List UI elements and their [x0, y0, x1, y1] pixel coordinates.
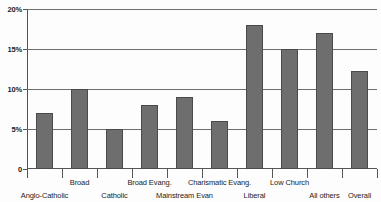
x-axis-tick-mark: [272, 169, 273, 178]
bar[interactable]: [316, 33, 334, 169]
x-axis-tick-mark: [342, 169, 343, 178]
y-axis-tick-label: 0: [18, 165, 22, 174]
bar[interactable]: [176, 97, 194, 169]
bar[interactable]: [141, 105, 159, 169]
y-axis-tick-label: 15%: [8, 45, 22, 54]
x-axis-tick-mark: [97, 169, 98, 178]
x-axis-tick-mark: [167, 169, 168, 178]
bar[interactable]: [281, 49, 299, 169]
gridline: [27, 9, 377, 10]
bar[interactable]: [351, 71, 369, 169]
x-axis-tick-mark: [132, 169, 133, 178]
x-axis-category-label: Anglo-Catholic: [21, 191, 68, 200]
x-axis-tick-mark: [237, 169, 238, 178]
y-axis-tick-label: 20%: [8, 5, 22, 14]
x-axis-category-label: Liberal: [244, 191, 266, 200]
bar[interactable]: [36, 113, 54, 169]
x-axis-category-label: Overall: [348, 191, 371, 200]
y-axis: 20%15%10%5%0: [0, 0, 22, 202]
x-axis-tick-mark: [307, 169, 308, 178]
x-axis-tick-mark: [27, 169, 28, 178]
x-axis-category-label: Mainstream Evan: [156, 191, 213, 200]
x-axis-tick-mark: [62, 169, 63, 178]
x-axis-category-label: Catholic: [101, 191, 127, 200]
bar[interactable]: [106, 129, 124, 169]
x-axis-category-label: Charismatic Evang.: [188, 178, 251, 187]
x-axis-category-label: Broad Evang.: [127, 178, 171, 187]
x-axis-category-label: Broad: [70, 178, 90, 187]
plot-area: [27, 9, 377, 169]
x-axis-category-label: All others: [309, 191, 339, 200]
x-axis: Anglo-CatholicBroadCatholicBroad Evang.M…: [27, 169, 377, 202]
x-axis-tick-mark: [377, 169, 378, 178]
bar[interactable]: [246, 25, 264, 169]
bar[interactable]: [71, 89, 89, 169]
x-axis-category-label: Low Church: [270, 178, 309, 187]
bar[interactable]: [211, 121, 229, 169]
y-axis-tick-label: 10%: [8, 85, 22, 94]
bar-chart: 20%15%10%5%0 Anglo-CatholicBroadCatholic…: [0, 0, 381, 202]
x-axis-tick-mark: [202, 169, 203, 178]
y-axis-tick-label: 5%: [12, 125, 22, 134]
